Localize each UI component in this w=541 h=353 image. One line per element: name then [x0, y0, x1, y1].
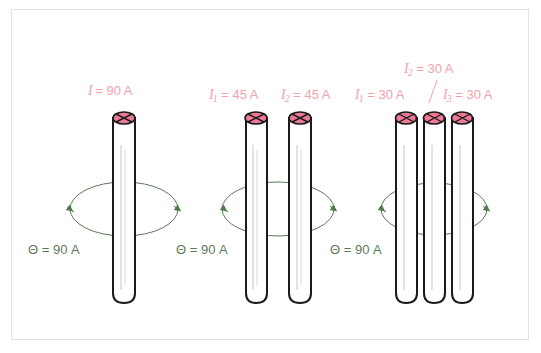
wire-body — [289, 118, 311, 303]
wire-body — [396, 118, 417, 303]
wire-body — [424, 118, 445, 303]
current-label-g3-i1: I1 = 30 A — [355, 88, 405, 104]
diagram-svg — [0, 0, 541, 353]
current-label-g3-i2: I2 = 30 A — [404, 62, 454, 78]
enclosed-current-label-g1: Θ = 90 A — [28, 243, 80, 256]
group-three-wires — [381, 80, 487, 303]
current-label-g2-i2: I2 = 45 A — [281, 88, 331, 104]
wire-body — [113, 118, 135, 303]
loop-arrow-left — [382, 209, 386, 212]
figure-canvas: I = 90 A Θ = 90 A I1 = 45 A I2 = 45 A Θ … — [0, 0, 541, 353]
wire-body — [452, 118, 473, 303]
group-two-wires — [222, 112, 334, 303]
amperian-loop — [222, 182, 334, 236]
current-label-g1-i1: I = 90 A — [88, 84, 133, 100]
current-label-g2-i1: I1 = 45 A — [209, 88, 259, 104]
enclosed-current-label-g2: Θ = 90 A — [176, 243, 228, 256]
group-single-wire — [70, 112, 178, 303]
leader-line-i2 — [429, 80, 437, 103]
enclosed-current-label-g3: Θ = 90 A — [330, 243, 382, 256]
current-label-g3-i3: I3 = 30 A — [443, 88, 493, 104]
loop-arrow-left — [224, 209, 228, 212]
